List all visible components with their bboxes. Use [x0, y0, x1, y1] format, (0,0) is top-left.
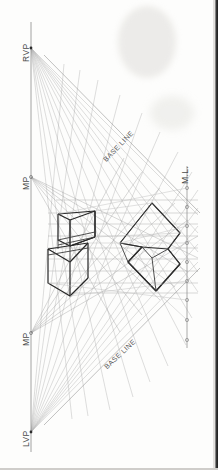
base-line-upper: [44, 55, 200, 213]
label-rvp: RVP: [21, 43, 31, 62]
scan-edge-shadow: [215, 0, 218, 470]
tie-lines: [48, 188, 187, 320]
perspective-drawing-canvas: [0, 0, 218, 470]
plan-view-footprint: [120, 203, 180, 291]
label-lvp: LVP: [21, 430, 31, 447]
label-measuring-line: M.L.: [180, 166, 190, 184]
plan-view-extra-edges: [120, 203, 180, 291]
label-mp-lower: MP: [21, 332, 31, 346]
drawing-sheet: RVP MP MP LVP M.L. BASE LINE BASE LINE: [0, 0, 218, 470]
label-mp-upper: MP: [21, 176, 31, 190]
